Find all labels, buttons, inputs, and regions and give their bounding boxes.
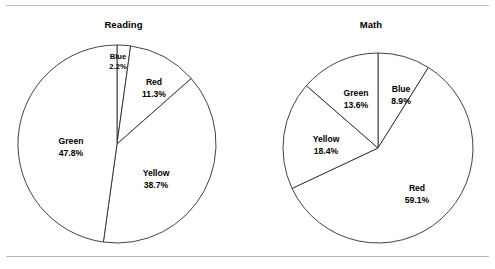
pie-svg-reading	[0, 0, 247, 269]
pie-svg-math	[247, 0, 495, 269]
pie-chart-math: Math Blue8.9%Red59.1%Yellow18.4%Green13.…	[247, 0, 495, 269]
pie-chart-reading: Reading Blue2.2%Red11.3%Yellow38.7%Green…	[0, 0, 247, 269]
pie-slice-green	[18, 45, 117, 242]
bottom-divider-rule	[6, 256, 489, 257]
